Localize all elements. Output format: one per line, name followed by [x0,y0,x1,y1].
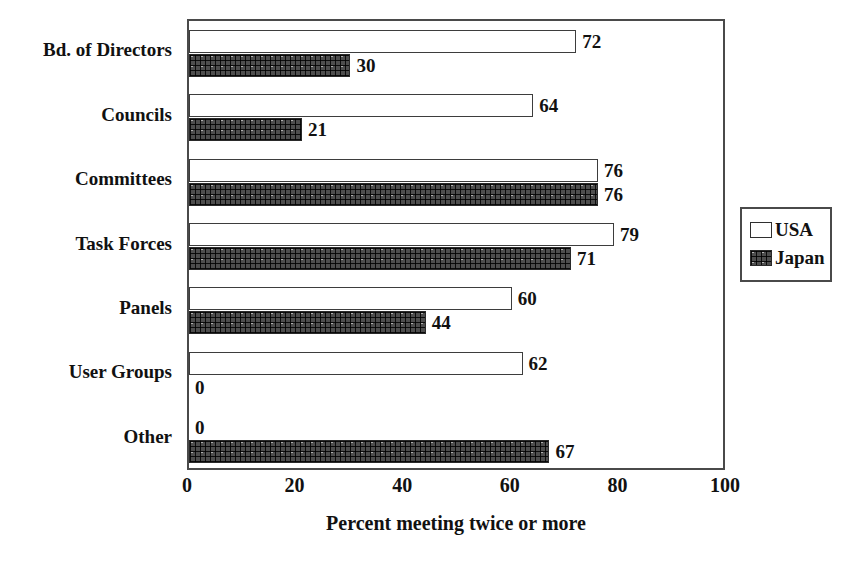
bar-usa-2 [189,159,598,182]
hollow-square-icon [750,222,772,238]
value-label-usa-2: 76 [598,159,623,182]
category-label-0: Bd. of Directors [0,39,178,61]
x-tick-label-1: 20 [285,474,305,497]
category-label-4: Panels [0,297,178,319]
category-label-1: Councils [0,104,178,126]
bar-usa-1 [189,94,533,117]
bar-usa-3 [189,223,614,246]
legend-item-japan[interactable]: Japan [750,244,822,272]
category-label-5: User Groups [0,361,178,383]
value-label-japan-0: 30 [350,54,375,77]
x-tick-label-0: 0 [182,474,192,497]
plot-area: 72306421767679716044620067 [187,19,725,470]
category-axis-labels: Bd. of Directors Councils Committees Tas… [0,19,180,470]
category-label-3: Task Forces [0,233,178,255]
x-tick-label-2: 40 [392,474,412,497]
bar-usa-4 [189,287,512,310]
bar-japan-6 [189,440,549,463]
bar-usa-0 [189,30,576,53]
x-tick-label-3: 60 [500,474,520,497]
value-label-usa-3: 79 [614,223,639,246]
value-label-japan-1: 21 [302,118,327,141]
value-label-japan-5: 0 [189,376,205,399]
legend-label-usa: USA [775,219,813,241]
x-axis-ticks: 020406080100 [187,474,725,504]
category-label-6: Other [0,426,178,448]
value-label-japan-6: 67 [549,440,574,463]
bar-japan-4 [189,311,426,334]
category-label-2: Committees [0,168,178,190]
bar-chart: Bd. of Directors Councils Committees Tas… [0,0,850,563]
value-label-usa-5: 62 [523,352,548,375]
x-axis-title: Percent meeting twice or more [187,512,725,535]
value-label-japan-3: 71 [571,247,596,270]
value-label-japan-2: 76 [598,183,623,206]
value-label-usa-6: 0 [189,416,205,439]
value-label-usa-0: 72 [576,30,601,53]
value-label-japan-4: 44 [426,311,451,334]
bar-japan-1 [189,118,302,141]
bar-japan-2 [189,183,598,206]
bar-japan-0 [189,54,350,77]
legend-label-japan: Japan [775,247,825,269]
x-tick-label-5: 100 [710,474,740,497]
x-tick-label-4: 80 [607,474,627,497]
legend-item-usa[interactable]: USA [750,216,822,244]
value-label-usa-1: 64 [533,94,558,117]
chart-legend: USA Japan [740,207,832,282]
bar-japan-3 [189,247,571,270]
crosshatch-square-icon [750,250,772,266]
value-label-usa-4: 60 [512,287,537,310]
bar-usa-5 [189,352,523,375]
